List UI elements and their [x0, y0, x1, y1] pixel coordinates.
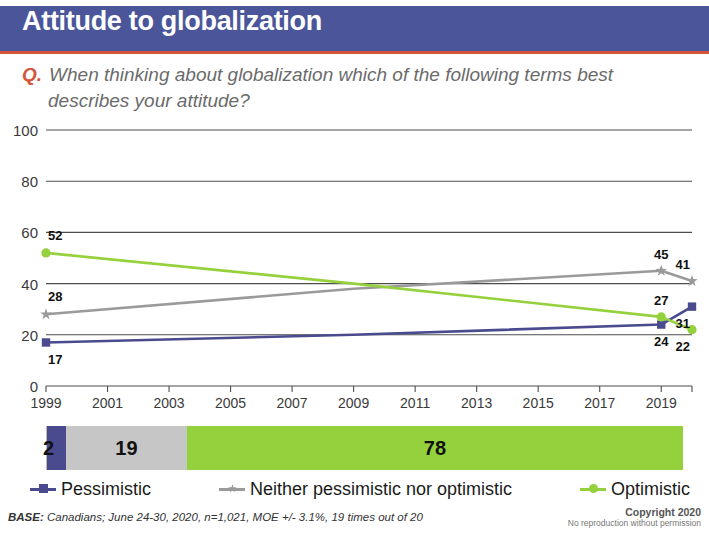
legend-marker-square-icon: [30, 482, 56, 496]
svg-text:0: 0: [30, 378, 38, 395]
question-prefix: Q.: [22, 62, 42, 88]
bar-segment-pessimistic: 2: [47, 426, 66, 470]
title-underline-rule: [0, 51, 709, 54]
legend-item-neither: Neither pessimistic nor optimistic: [219, 479, 512, 500]
legend-label-optimistic: Optimistic: [611, 479, 690, 500]
legend-label-neither: Neither pessimistic nor optimistic: [250, 479, 512, 500]
copyright-line: Copyright 2020: [568, 506, 701, 518]
svg-text:2001: 2001: [92, 395, 123, 411]
legend-marker-circle-icon: [580, 482, 606, 496]
svg-text:52: 52: [48, 228, 62, 243]
svg-text:80: 80: [21, 173, 38, 190]
svg-text:2007: 2007: [277, 395, 308, 411]
svg-text:2011: 2011: [400, 395, 430, 411]
question-text: When thinking about globalization which …: [22, 62, 662, 114]
question-block: Q. When thinking about globalization whi…: [22, 62, 662, 114]
svg-text:2013: 2013: [461, 395, 492, 411]
page-title: Attitude to globalization: [22, 6, 322, 37]
svg-text:24: 24: [654, 334, 669, 349]
svg-text:1999: 1999: [30, 395, 61, 411]
svg-text:2005: 2005: [215, 395, 246, 411]
bar-segment-optimistic-value: 78: [424, 437, 446, 460]
svg-text:2017: 2017: [584, 395, 615, 411]
svg-text:20: 20: [21, 327, 38, 344]
chart-series-group: [40, 248, 697, 346]
bar-segment-neither: 19: [66, 426, 187, 470]
chart-x-axis: 1999200120032005200720092011201320152017…: [30, 386, 692, 411]
svg-text:41: 41: [676, 257, 690, 272]
svg-text:2015: 2015: [523, 395, 554, 411]
legend-item-optimistic: Optimistic: [580, 479, 690, 500]
svg-text:22: 22: [676, 339, 690, 354]
bar-segment-neither-value: 19: [115, 437, 137, 460]
bar-segment-pessimistic-value: 2: [43, 437, 54, 460]
chart-y-axis-labels: 020406080100: [13, 122, 38, 395]
svg-text:2019: 2019: [646, 395, 677, 411]
legend-marker-star-icon: [219, 482, 245, 496]
svg-text:100: 100: [13, 122, 38, 139]
svg-text:17: 17: [48, 352, 62, 367]
summary-stacked-bar: 2 19 78: [46, 426, 683, 470]
footnote-base-keyword: BASE:: [8, 511, 44, 523]
chart-canvas: 020406080100 199920012003200520072009201…: [0, 118, 709, 418]
svg-text:27: 27: [654, 293, 668, 308]
line-chart: 020406080100 199920012003200520072009201…: [0, 118, 709, 418]
svg-text:2003: 2003: [153, 395, 184, 411]
svg-text:31: 31: [676, 316, 690, 331]
svg-text:2009: 2009: [338, 395, 369, 411]
bar-segment-optimistic: 78: [187, 426, 683, 470]
legend-label-pessimistic: Pessimistic: [61, 479, 151, 500]
svg-text:28: 28: [48, 289, 62, 304]
footnote-base-text: Canadians; June 24-30, 2020, n=1,021, MO…: [47, 511, 423, 523]
chart-legend: Pessimistic Neither pessimistic nor opti…: [30, 476, 702, 502]
footnote-base: BASE: Canadians; June 24-30, 2020, n=1,0…: [8, 511, 423, 523]
copyright-notice-line: No reproduction without permission: [568, 518, 701, 528]
legend-item-pessimistic: Pessimistic: [30, 479, 151, 500]
footnote-copyright: Copyright 2020 No reproduction without p…: [568, 506, 701, 528]
chart-point-labels: 172431284541522722: [48, 228, 690, 368]
svg-text:45: 45: [654, 247, 668, 262]
svg-text:40: 40: [21, 276, 38, 293]
chart-gridlines: [46, 130, 692, 335]
svg-text:60: 60: [21, 224, 38, 241]
